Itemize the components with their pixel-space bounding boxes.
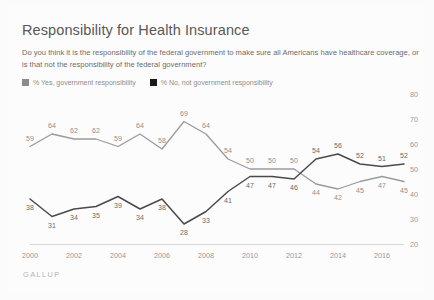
x-tick-label: 2000 xyxy=(10,251,50,260)
line-chart-svg xyxy=(8,94,426,244)
data-label: 41 xyxy=(224,197,232,204)
data-label: 31 xyxy=(48,222,56,229)
data-label: 28 xyxy=(180,229,188,236)
chart-legend: % Yes, government responsibility % No, n… xyxy=(22,79,273,86)
data-label: 38 xyxy=(26,204,34,211)
data-label: 62 xyxy=(70,127,78,134)
chart-subtitle: Do you think it is the responsibility of… xyxy=(22,47,420,70)
data-label: 69 xyxy=(180,110,188,117)
y-tick-label: 30 xyxy=(410,215,418,224)
data-label: 62 xyxy=(92,127,100,134)
y-tick-label: 60 xyxy=(410,140,418,149)
data-label: 59 xyxy=(114,135,122,142)
data-label: 33 xyxy=(202,217,210,224)
x-tick-label: 2006 xyxy=(142,251,182,260)
data-label: 59 xyxy=(26,135,34,142)
y-tick-label: 20 xyxy=(410,240,418,249)
data-label: 51 xyxy=(378,155,386,162)
data-label: 44 xyxy=(312,189,320,196)
chart-card: Responsibility for Health Insurance Do y… xyxy=(0,0,434,300)
legend-label-yes: % Yes, government responsibility xyxy=(33,79,136,86)
data-label: 34 xyxy=(70,214,78,221)
data-label: 50 xyxy=(268,157,276,164)
data-label: 56 xyxy=(334,142,342,149)
x-tick-label: 2008 xyxy=(186,251,226,260)
x-tick-label: 2010 xyxy=(230,251,270,260)
data-label: 45 xyxy=(400,187,408,194)
series-line-yes xyxy=(30,122,404,190)
data-label: 47 xyxy=(378,182,386,189)
x-axis-line xyxy=(30,244,404,245)
data-label: 64 xyxy=(136,122,144,129)
legend-swatch-yes xyxy=(22,79,29,86)
data-label: 42 xyxy=(334,194,342,201)
data-label: 58 xyxy=(158,137,166,144)
data-label: 34 xyxy=(136,214,144,221)
legend-label-no: % No, not government responsibility xyxy=(161,79,273,86)
data-label: 45 xyxy=(356,187,364,194)
data-label: 50 xyxy=(246,157,254,164)
data-label: 39 xyxy=(114,202,122,209)
y-tick-label: 80 xyxy=(410,90,418,99)
data-label: 46 xyxy=(290,184,298,191)
y-tick-label: 40 xyxy=(410,190,418,199)
legend-item-yes[interactable]: % Yes, government responsibility xyxy=(22,79,136,86)
series-line-no xyxy=(30,154,404,224)
y-tick-label: 50 xyxy=(410,165,418,174)
data-label: 52 xyxy=(356,152,364,159)
source-attribution: GALLUP xyxy=(23,270,61,279)
data-label: 54 xyxy=(224,147,232,154)
x-tick-label: 2002 xyxy=(54,251,94,260)
chart-inner-panel: Responsibility for Health Insurance Do y… xyxy=(8,6,426,294)
x-tick-label: 2014 xyxy=(318,251,358,260)
data-label: 35 xyxy=(92,212,100,219)
y-tick-label: 70 xyxy=(410,115,418,124)
data-label: 54 xyxy=(312,147,320,154)
data-label: 47 xyxy=(268,182,276,189)
data-label: 52 xyxy=(400,152,408,159)
plot-area xyxy=(8,94,426,244)
x-tick-label: 2012 xyxy=(274,251,314,260)
data-label: 47 xyxy=(246,182,254,189)
legend-item-no[interactable]: % No, not government responsibility xyxy=(150,79,273,86)
x-tick-label: 2004 xyxy=(98,251,138,260)
data-label: 64 xyxy=(202,122,210,129)
data-label: 50 xyxy=(290,157,298,164)
page-title: Responsibility for Health Insurance xyxy=(22,22,250,38)
x-tick-label: 2016 xyxy=(362,251,402,260)
data-label: 38 xyxy=(158,204,166,211)
legend-swatch-no xyxy=(150,79,157,86)
data-label: 64 xyxy=(48,122,56,129)
